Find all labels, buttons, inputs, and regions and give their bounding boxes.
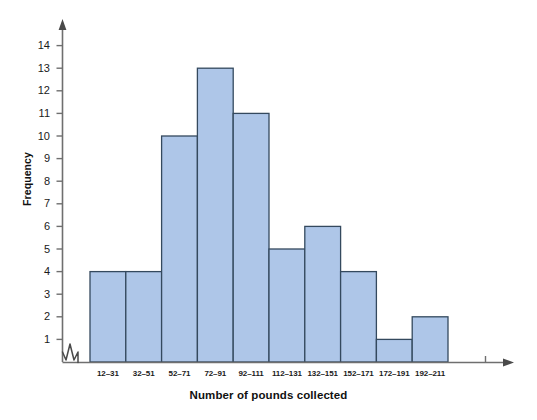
histogram-bar <box>233 113 269 362</box>
y-axis-tick-label: 12 <box>28 85 50 96</box>
histogram-bar <box>412 317 448 362</box>
histogram-bar <box>376 339 412 362</box>
histogram-bar <box>341 272 377 362</box>
x-axis-tick-label: 192–211 <box>406 369 454 378</box>
histogram-bar <box>269 249 305 362</box>
x-axis-title: Number of pounds collected <box>0 389 537 401</box>
y-axis-tick-label: 14 <box>28 40 50 51</box>
y-axis-ticks <box>57 46 63 340</box>
y-axis-tick-label: 3 <box>28 289 50 300</box>
axis-break-icon <box>63 344 79 363</box>
y-axis-tick-label: 5 <box>28 244 50 255</box>
histogram-figure: 1234567891011121314 12–3132–5152–7172–91… <box>0 0 537 420</box>
histogram-bar <box>126 272 162 362</box>
y-axis-title: Frequency <box>21 139 33 219</box>
y-axis-tick-label: 1 <box>28 334 50 345</box>
y-axis-arrow-icon <box>59 19 67 30</box>
histogram-bar <box>90 272 126 362</box>
histogram-chart <box>0 0 537 420</box>
bars-group <box>90 68 448 362</box>
histogram-bar <box>305 226 341 362</box>
y-axis-tick-label: 11 <box>28 108 50 119</box>
histogram-bar <box>197 68 233 362</box>
x-axis-arrow-icon <box>503 358 514 366</box>
y-axis-tick-label: 6 <box>28 221 50 232</box>
y-axis-tick-label: 2 <box>28 311 50 322</box>
y-axis-tick-label: 4 <box>28 266 50 277</box>
histogram-bar <box>162 136 198 362</box>
y-axis-tick-label: 13 <box>28 63 50 74</box>
